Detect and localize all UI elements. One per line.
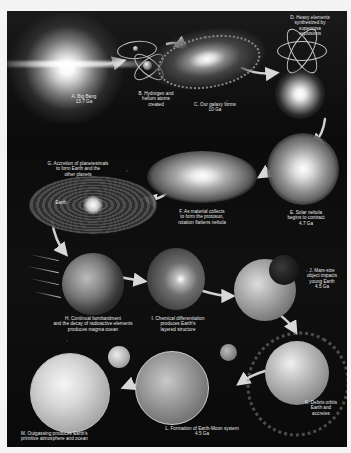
label-stage-h: H. Continual bombardment and the decay o…	[37, 316, 149, 332]
debris-orbiting-earth	[265, 341, 329, 405]
label-stage-g: G. Accretion of planetesimals to form Ea…	[35, 161, 121, 177]
label-stage-e: E. Solar nebula begins to contract 4.7 G…	[275, 210, 337, 226]
mars-size-impactor	[269, 255, 299, 285]
label-stage-c: C. Our galaxy forms 10 Ga	[185, 102, 245, 113]
earth-moon-system-moon	[220, 344, 237, 361]
arrow-i-to-j	[203, 291, 231, 296]
label-stage-i: I. Chemical differentiation produces Ear…	[143, 316, 213, 332]
big-bang-illustration	[7, 13, 127, 123]
magma-ocean-earth	[62, 253, 124, 315]
outgassing-moon	[108, 346, 130, 368]
label-stage-f: F. As material collects to form the prot…	[165, 209, 239, 225]
young-sun	[82, 196, 104, 214]
earth-moon-system-earth	[135, 351, 209, 425]
label-stage-m: M. Outgassing produces Earth's primitive…	[21, 431, 117, 442]
bombardment-streak	[29, 254, 59, 261]
label-stage-l: L. Formation of Earth-Moon system 4.5 Ga	[147, 426, 257, 437]
label-stage-a: A. Big Bang 13.7 Ga	[59, 94, 109, 105]
layered-earth-cutaway	[147, 248, 205, 310]
bombardment-streak	[33, 291, 61, 298]
bombardment-streak	[27, 266, 59, 274]
protosun-disk-illustration	[147, 151, 257, 203]
outgassing-earth	[30, 353, 110, 433]
bombardment-streak	[29, 278, 59, 285]
label-stage-k: K. Debris orbits Earth and accretes	[299, 400, 343, 416]
earth-marker-label: Earth	[51, 200, 71, 205]
solar-nebula-illustration	[267, 133, 339, 205]
label-stage-b: B. Hydrogen and helium atoms created	[127, 91, 185, 107]
label-stage-j: J. Mars-size object impacts young Earth …	[301, 268, 343, 290]
earth-formation-diagram: A. Big Bang 13.7 Ga B. Hydrogen and heli…	[7, 11, 347, 447]
hydrogen-atom-nucleus	[133, 46, 138, 51]
supernova-illustration	[275, 69, 325, 119]
label-stage-d: D. Heavy elements synthesized by superno…	[279, 15, 341, 37]
